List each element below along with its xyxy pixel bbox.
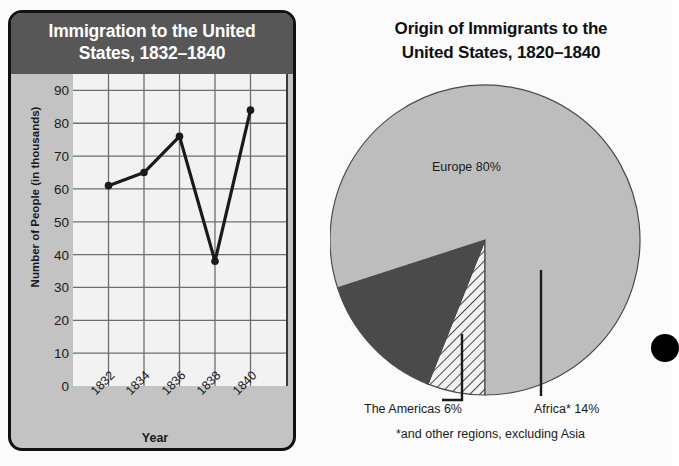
line-chart-point [247, 106, 255, 114]
line-chart-y-tick: 10 [35, 346, 69, 361]
line-chart-y-tick: 50 [35, 214, 69, 229]
line-chart-y-tick: 90 [35, 83, 69, 98]
line-chart-panel: Immigration to the United States, 1832–1… [8, 10, 296, 451]
pie-chart-title: Origin of Immigrants to the United State… [336, 17, 666, 65]
page-edge-dot-artifact [651, 334, 679, 362]
line-chart-x-tick-labels: 18321834183618381840 [73, 388, 288, 433]
pie-chart-title-line-2: United States, 1820–1840 [336, 41, 666, 65]
pie-chart-area [330, 78, 672, 408]
line-chart-svg [73, 74, 286, 386]
line-chart-title-line-1: Immigration to the United [11, 20, 293, 42]
line-chart-plot-area [73, 74, 288, 386]
line-chart-y-tick-labels: 0102030405060708090 [31, 74, 69, 386]
pie-label-americas: The Americas 6% [364, 402, 462, 416]
line-chart-y-tick: 80 [35, 116, 69, 131]
line-chart-vertical-gridlines [109, 74, 251, 386]
line-chart-y-tick: 30 [35, 280, 69, 295]
pie-chart-title-line-1: Origin of Immigrants to the [336, 17, 666, 41]
line-chart-y-tick: 0 [35, 379, 69, 394]
pie-label-europe: Europe 80% [432, 160, 501, 174]
pie-chart-footnote: *and other regions, excluding Asia [396, 427, 585, 441]
line-chart-x-axis-title: Year [11, 431, 296, 445]
line-chart-y-tick: 70 [35, 149, 69, 164]
line-chart-title: Immigration to the United States, 1832–1… [11, 13, 293, 74]
line-chart-point [105, 182, 113, 190]
pie-chart-slices [330, 85, 640, 395]
line-chart-title-line-2: States, 1832–1840 [11, 42, 293, 64]
pie-chart-svg [330, 78, 672, 408]
line-chart-y-tick: 20 [35, 313, 69, 328]
pie-label-africa: Africa* 14% [534, 402, 599, 416]
line-chart-point [176, 133, 184, 141]
line-chart-point [140, 169, 148, 177]
line-chart-y-tick: 60 [35, 181, 69, 196]
line-chart-point [211, 257, 219, 265]
line-chart-y-tick: 40 [35, 247, 69, 262]
